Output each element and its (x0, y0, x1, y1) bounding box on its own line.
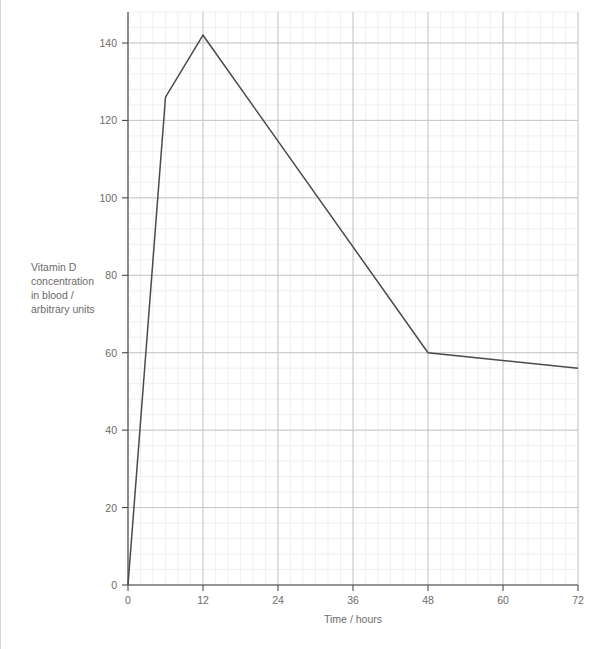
y-axis-title-line-2: concentration (31, 275, 94, 287)
y-tick-label: 120 (99, 114, 117, 126)
y-axis-ticks: 020406080100120140 (99, 37, 128, 591)
y-tick-label: 100 (99, 192, 117, 204)
vitamin-d-line-chart: 0122436486072 020406080100120140 Time / … (0, 0, 599, 649)
x-tick-label: 36 (347, 594, 359, 606)
y-axis-title-line-1: Vitamin D (31, 261, 77, 273)
x-axis-title: Time / hours (324, 613, 382, 625)
y-axis-title-line-4: arbitrary units (31, 303, 95, 315)
x-tick-label: 12 (197, 594, 209, 606)
y-tick-label: 140 (99, 37, 117, 49)
chart-canvas: 0122436486072 020406080100120140 Time / … (0, 0, 599, 649)
x-tick-label: 48 (422, 594, 434, 606)
y-axis-title-line-3: in blood / (31, 289, 74, 301)
x-tick-label: 60 (497, 594, 509, 606)
y-axis-title: Vitamin D concentration in blood / arbit… (31, 261, 95, 315)
x-tick-label: 0 (125, 594, 131, 606)
x-tick-label: 24 (272, 594, 284, 606)
x-axis-ticks: 0122436486072 (125, 585, 584, 606)
y-tick-label: 20 (105, 502, 117, 514)
y-tick-label: 80 (105, 269, 117, 281)
y-tick-label: 40 (105, 424, 117, 436)
y-tick-label: 0 (111, 579, 117, 591)
x-tick-label: 72 (572, 594, 584, 606)
y-tick-label: 60 (105, 347, 117, 359)
